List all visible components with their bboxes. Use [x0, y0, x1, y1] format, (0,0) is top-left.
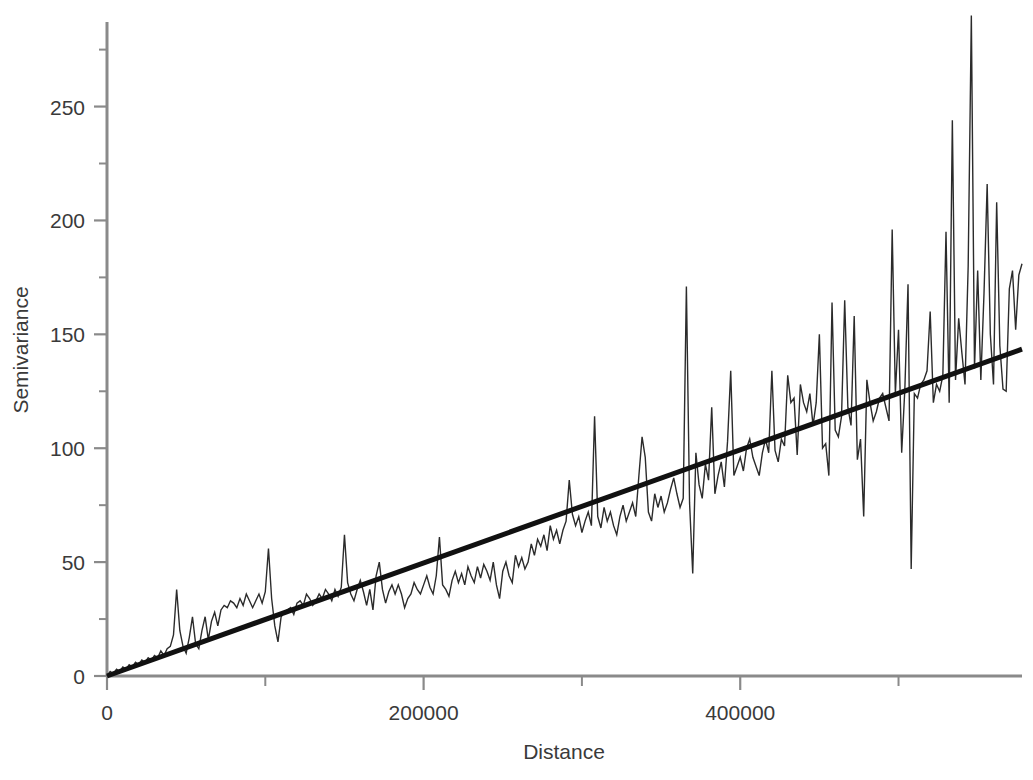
y-tick-label: 100 [50, 437, 85, 460]
y-tick-label: 200 [50, 209, 85, 232]
semivariogram-figure: 050100150200250 0200000400000 Distance S… [0, 0, 1033, 780]
chart-canvas: 050100150200250 0200000400000 Distance S… [0, 0, 1033, 780]
y-tick-label: 0 [73, 665, 85, 688]
x-tick-label: 200000 [389, 701, 459, 724]
chart-background [0, 0, 1033, 780]
y-tick-label: 150 [50, 323, 85, 346]
y-tick-label: 50 [62, 551, 85, 574]
x-axis-title: Distance [523, 740, 605, 763]
y-tick-label: 250 [50, 96, 85, 119]
x-tick-label: 0 [101, 701, 113, 724]
x-tick-label: 400000 [705, 701, 775, 724]
y-axis-title: Semivariance [9, 286, 32, 413]
